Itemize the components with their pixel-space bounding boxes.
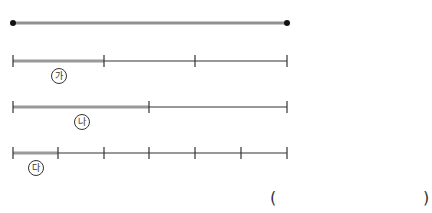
- circled-label: 나: [74, 114, 90, 130]
- circled-label: 가: [51, 68, 67, 84]
- endpoint-dot: [284, 20, 290, 26]
- answer-close-paren: ): [423, 188, 429, 207]
- circled-label: 다: [28, 160, 44, 176]
- answer-open-paren: (: [270, 188, 276, 207]
- fraction-bar-diagram: [0, 0, 432, 213]
- endpoint-dot: [10, 20, 16, 26]
